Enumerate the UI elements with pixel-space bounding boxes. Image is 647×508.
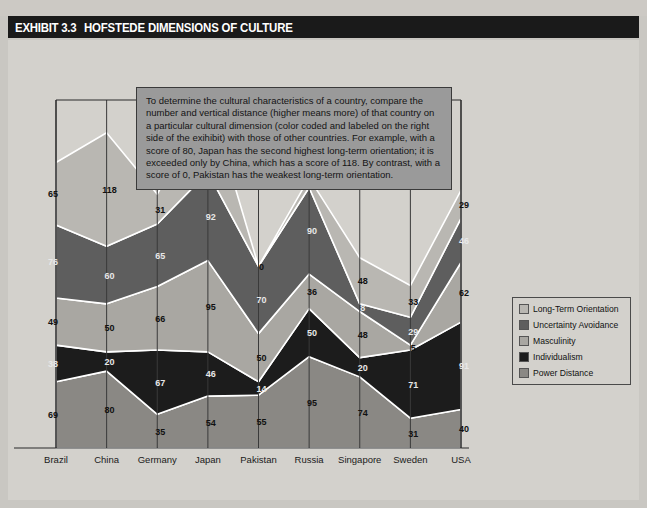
data-value-label: 38 <box>48 359 58 369</box>
data-value-label: 69 <box>48 410 58 420</box>
legend-item: Individualism <box>519 352 625 362</box>
axis-category-label: Russia <box>295 454 325 465</box>
data-value-label: 36 <box>307 287 317 297</box>
data-value-label: 70 <box>256 295 266 305</box>
axis-category-label: Brazil <box>44 454 68 465</box>
exhibit-page: EXHIBIT 3.3 HOFSTEDE DIMENSIONS OF CULTU… <box>0 0 647 508</box>
data-value-label: 54 <box>206 418 216 428</box>
axis-category-label: Pakistan <box>240 454 276 465</box>
legend-label-masculinity: Masculinity <box>533 336 576 346</box>
chart-legend: Long-Term Orientation Uncertainty Avoida… <box>512 297 631 385</box>
data-value-label: 92 <box>206 212 216 222</box>
data-value-label: 91 <box>459 361 469 371</box>
data-value-label: 60 <box>105 271 115 281</box>
data-value-label: 74 <box>358 408 368 418</box>
data-value-label: 29 <box>408 327 418 337</box>
data-value-label: 46 <box>206 369 216 379</box>
data-value-label: 65 <box>155 251 165 261</box>
data-value-label: 40 <box>459 424 469 434</box>
data-value-label: 49 <box>48 317 58 327</box>
data-value-label: 55 <box>256 417 266 427</box>
data-value-label: 29 <box>459 200 469 210</box>
data-value-label: 76 <box>48 257 58 267</box>
legend-item: Long-Term Orientation <box>519 304 625 314</box>
data-value-label: 8 <box>360 303 365 313</box>
legend-label-power-distance: Power Distance <box>533 368 593 378</box>
data-value-label: 0 <box>259 262 264 272</box>
legend-item: Power Distance <box>519 368 625 378</box>
data-value-label: 46 <box>459 236 469 246</box>
data-value-label: 14 <box>256 384 266 394</box>
data-value-label: 35 <box>155 427 165 437</box>
legend-swatch-individualism <box>519 352 529 362</box>
data-value-label: 118 <box>102 185 117 195</box>
data-value-label: 5 <box>411 343 416 353</box>
data-value-label: 90 <box>307 226 317 236</box>
axis-category-label: Japan <box>195 454 221 465</box>
axis-category-label: Sweden <box>393 454 427 465</box>
top-strip <box>0 0 647 16</box>
legend-label-uncertainty-avoidance: Uncertainty Avoidance <box>533 320 618 330</box>
legend-label-long-term-orientation: Long-Term Orientation <box>533 304 619 314</box>
data-value-label: 33 <box>408 297 418 307</box>
data-value-label: 50 <box>105 323 115 333</box>
data-value-label: 20 <box>358 363 368 373</box>
legend-item: Masculinity <box>519 336 625 346</box>
legend-swatch-uncertainty-avoidance <box>519 320 529 330</box>
data-value-label: 31 <box>408 429 418 439</box>
callout-text: To determine the cultural characteristic… <box>146 95 442 182</box>
data-value-label: 20 <box>105 357 115 367</box>
legend-label-individualism: Individualism <box>533 352 583 362</box>
axis-category-label: Singapore <box>338 454 381 465</box>
data-value-label: 80 <box>105 405 115 415</box>
data-value-label: 95 <box>307 398 317 408</box>
data-value-label: 48 <box>358 330 368 340</box>
data-value-label: 48 <box>358 276 368 286</box>
axis-category-label: China <box>94 454 120 465</box>
data-value-label: 65 <box>48 189 58 199</box>
axis-category-label: USA <box>451 454 471 465</box>
callout-box: To determine the cultural characteristic… <box>136 87 452 190</box>
data-value-label: 62 <box>459 288 469 298</box>
data-value-label: 50 <box>256 353 266 363</box>
legend-swatch-long-term-orientation <box>519 304 529 314</box>
data-value-label: 67 <box>155 378 165 388</box>
data-value-label: 66 <box>155 314 165 324</box>
legend-item: Uncertainty Avoidance <box>519 320 625 330</box>
data-value-label: 71 <box>408 380 418 390</box>
legend-swatch-power-distance <box>519 368 529 378</box>
exhibit-tag: EXHIBIT 3.3 <box>8 20 87 35</box>
data-value-label: 95 <box>206 302 216 312</box>
chart-panel: 6980355455957431403820674614502071914950… <box>8 40 639 500</box>
data-value-label: 31 <box>155 205 165 215</box>
data-value-label: 50 <box>307 328 317 338</box>
exhibit-title: HOFSTEDE DIMENSIONS OF CULTURE <box>84 20 293 35</box>
legend-swatch-masculinity <box>519 336 529 346</box>
exhibit-header: EXHIBIT 3.3 HOFSTEDE DIMENSIONS OF CULTU… <box>8 16 639 38</box>
axis-category-label: Germany <box>138 454 177 465</box>
